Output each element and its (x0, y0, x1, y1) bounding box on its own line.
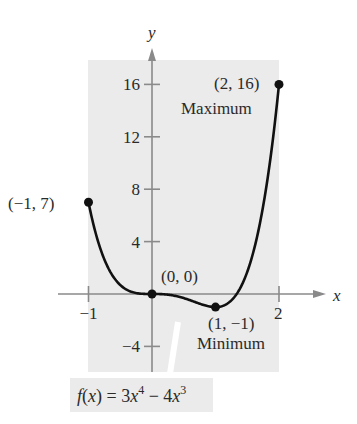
y-tick-label: 8 (132, 180, 141, 199)
point-label-minimum: (1, −1) (208, 314, 254, 333)
point-label-left-endpoint: (−1, 7) (8, 194, 54, 213)
function-label: f(x) = 3x4 − 4x3 (77, 383, 186, 407)
x-axis-arrow-icon (313, 290, 326, 298)
y-tick-label: 16 (123, 75, 140, 94)
point-label-origin: (0, 0) (161, 267, 198, 286)
y-axis-arrow-icon (148, 48, 156, 61)
point-marker (211, 303, 220, 312)
point-marker (275, 80, 284, 89)
x-axis-label: x (332, 286, 341, 305)
y-tick-label: 12 (123, 128, 140, 147)
x-tick-label: −1 (80, 304, 98, 323)
point-label-maximum: (2, 16) (214, 74, 259, 93)
x-tick-label: 2 (274, 304, 283, 323)
function-graph: −12161284−4 x y (−1, 7) (0, 0) (1, −1) M… (0, 0, 357, 424)
y-axis-label: y (146, 23, 156, 42)
minimum-note: Minimum (197, 334, 265, 353)
maximum-note: Maximum (181, 99, 252, 118)
point-marker (84, 198, 93, 207)
y-tick-label: 4 (132, 233, 141, 252)
y-tick-label: −4 (122, 337, 141, 356)
point-marker (148, 290, 157, 299)
